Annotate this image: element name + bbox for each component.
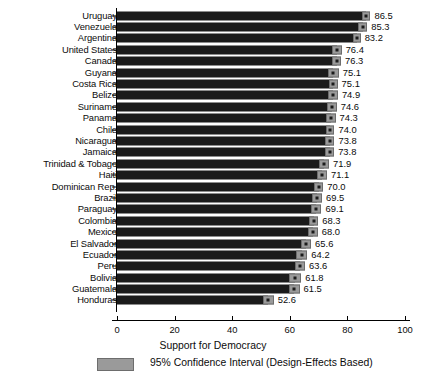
y-axis-tick: [112, 38, 116, 39]
y-axis-tick: [112, 277, 116, 278]
bar-row: Mexico68.0: [0, 226, 426, 237]
bar-row: Trinidad & Tobago71.9: [0, 158, 426, 169]
point-estimate-marker: [336, 48, 339, 51]
bar: [117, 182, 319, 191]
bar-row-label: Guatemala: [72, 284, 117, 293]
bar-row-label: United States: [62, 45, 117, 54]
y-axis-tick: [112, 220, 116, 221]
bar-value-label: 86.5: [374, 11, 392, 20]
point-estimate-marker: [355, 37, 358, 40]
y-axis-tick: [112, 243, 116, 244]
x-axis-tick: [232, 316, 233, 320]
bar: [117, 114, 331, 123]
x-axis-tick: [347, 316, 348, 320]
point-estimate-marker: [361, 26, 364, 29]
bar-row: United States76.4: [0, 44, 426, 55]
bar-rows: Uruguay86.5Venezuela85.3Argentina83.2Uni…: [0, 10, 426, 306]
bar: [117, 205, 316, 214]
point-estimate-marker: [293, 288, 296, 291]
y-axis-tick: [112, 106, 116, 107]
y-axis-tick: [112, 209, 116, 210]
bar-row: El Salvador65.6: [0, 238, 426, 249]
bar-row: Jamaica73.8: [0, 147, 426, 158]
x-axis-tick-label: 60: [285, 324, 295, 335]
bar-value-label: 61.5: [304, 284, 322, 293]
bar-row: Venezuela85.3: [0, 21, 426, 32]
bar-row-label: Venezuela: [74, 22, 117, 31]
point-estimate-marker: [330, 105, 333, 108]
point-estimate-marker: [323, 162, 326, 165]
x-axis-tick: [405, 316, 406, 320]
y-axis-tick: [112, 254, 116, 255]
point-estimate-marker: [320, 174, 323, 177]
bar-value-label: 69.1: [325, 205, 343, 214]
x-axis-tick-label: 80: [342, 324, 352, 335]
y-axis-tick: [112, 300, 116, 301]
bar: [117, 68, 333, 77]
bar: [117, 285, 294, 294]
y-axis-tick: [112, 186, 116, 187]
bar-row: Honduras52.6: [0, 295, 426, 306]
bar-value-label: 65.6: [315, 239, 333, 248]
y-axis-tick: [112, 140, 116, 141]
y-axis-tick: [112, 232, 116, 233]
bar-value-label: 73.8: [338, 136, 356, 145]
bar-row: Colombia68.3: [0, 215, 426, 226]
bar-row: Belize74.9: [0, 90, 426, 101]
plot-area: Uruguay86.5Venezuela85.3Argentina83.2Uni…: [0, 0, 426, 330]
point-estimate-marker: [335, 60, 338, 63]
x-axis-tick: [175, 316, 176, 320]
point-estimate-marker: [304, 242, 307, 245]
bar-row-label: Trinidad & Tobago: [43, 159, 117, 168]
bar: [117, 193, 317, 202]
bar-row: Suriname74.6: [0, 101, 426, 112]
bar-row: Uruguay86.5: [0, 10, 426, 21]
bar-row: Guatemala61.5: [0, 283, 426, 294]
x-axis-line: [112, 320, 410, 321]
x-axis-tick-label: 0: [114, 324, 119, 335]
bar-value-label: 73.8: [338, 148, 356, 157]
bar-row: Haiti71.1: [0, 169, 426, 180]
bar: [117, 11, 366, 20]
point-estimate-marker: [331, 94, 334, 97]
y-axis-tick: [112, 197, 116, 198]
bar-value-label: 75.1: [342, 79, 360, 88]
point-estimate-marker: [311, 231, 314, 234]
point-estimate-marker: [329, 128, 332, 131]
bar-row: Guyana75.1: [0, 67, 426, 78]
bar-row: Panama74.3: [0, 113, 426, 124]
bar-value-label: 74.3: [340, 114, 358, 123]
bar: [117, 239, 306, 248]
y-axis-tick: [112, 152, 116, 153]
bar: [117, 262, 300, 271]
bar-value-label: 71.9: [333, 159, 351, 168]
bar-row: Argentina83.2: [0, 33, 426, 44]
bar: [117, 148, 330, 157]
bar: [117, 57, 337, 66]
bar-row-label: Dominican Rep.: [52, 182, 117, 191]
bar-value-label: 74.9: [342, 91, 360, 100]
point-estimate-marker: [328, 139, 331, 142]
bar-row: Ecuador64.2: [0, 249, 426, 260]
bar-value-label: 74.0: [338, 125, 356, 134]
point-estimate-marker: [267, 299, 270, 302]
x-axis-title: Support for Democracy: [0, 340, 426, 351]
bar-value-label: 69.5: [326, 193, 344, 202]
bar-row: Nicaragua73.8: [0, 135, 426, 146]
bar-value-label: 85.3: [371, 22, 389, 31]
bar-row: Canada76.3: [0, 56, 426, 67]
bar-row: Paraguay69.1: [0, 204, 426, 215]
point-estimate-marker: [293, 276, 296, 279]
bar: [117, 23, 363, 32]
bar-value-label: 63.6: [309, 262, 327, 271]
bar: [117, 34, 357, 43]
bar-value-label: 64.2: [311, 250, 329, 259]
support-for-democracy-chart: Uruguay86.5Venezuela85.3Argentina83.2Uni…: [0, 0, 426, 386]
bar: [117, 250, 302, 259]
bar: [117, 80, 333, 89]
y-axis-tick: [112, 129, 116, 130]
bar-row-label: Nicaragua: [75, 136, 117, 145]
y-axis-tick: [112, 27, 116, 28]
bar: [117, 296, 268, 305]
y-axis-tick: [112, 95, 116, 96]
